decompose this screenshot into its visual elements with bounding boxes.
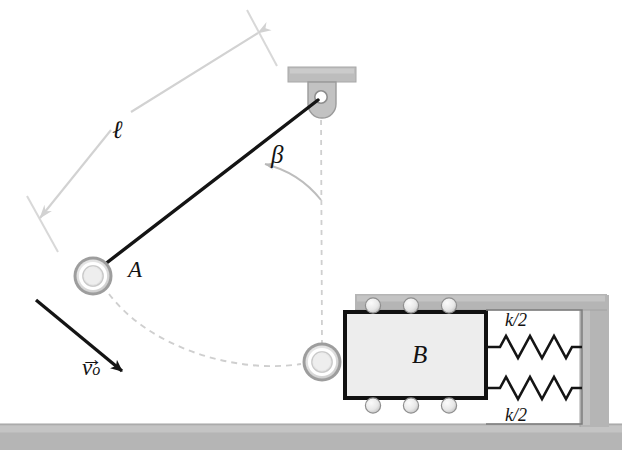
witness-tick-lower [27, 196, 58, 252]
spring-top [486, 336, 582, 358]
spring-cavity-outline [486, 310, 582, 424]
velocity-vector-arrow [36, 300, 122, 371]
swing-trajectory-dashed-arc [109, 294, 301, 366]
physics-diagram: ℓ β A B → v o k/2 k/2 [0, 0, 622, 467]
beta-angle-label: β [271, 142, 283, 167]
rollers-top [365, 298, 456, 313]
spring-bottom-label: k/2 [505, 406, 527, 424]
pivot-bracket [308, 82, 336, 118]
vector-overarrow-icon: → [81, 349, 103, 371]
beta-angle-arc [265, 164, 321, 200]
velocity-label: → v o [82, 356, 100, 379]
ball-a [74, 257, 113, 296]
velocity-vector-symbol: → v [82, 356, 92, 379]
block-b-label: B [412, 342, 427, 367]
diagram-canvas [0, 0, 622, 467]
length-label: ℓ [112, 117, 122, 142]
top-support-band [355, 294, 607, 310]
spring-top-label: k/2 [505, 311, 527, 329]
pendulum-rod [100, 100, 318, 268]
dimension-arrow-upper [131, 33, 258, 112]
rollers-bottom [365, 398, 456, 413]
ground-surface [0, 424, 622, 450]
length-dimension [27, 10, 277, 252]
spring-bottom [486, 377, 582, 399]
right-wall [580, 295, 609, 427]
vertical-reference-dashed-line [321, 110, 322, 347]
ball-a-impact-position [303, 343, 342, 382]
ceiling-support [288, 67, 356, 82]
dimension-arrow-lower [40, 130, 111, 218]
ball-a-label: A [128, 258, 142, 281]
